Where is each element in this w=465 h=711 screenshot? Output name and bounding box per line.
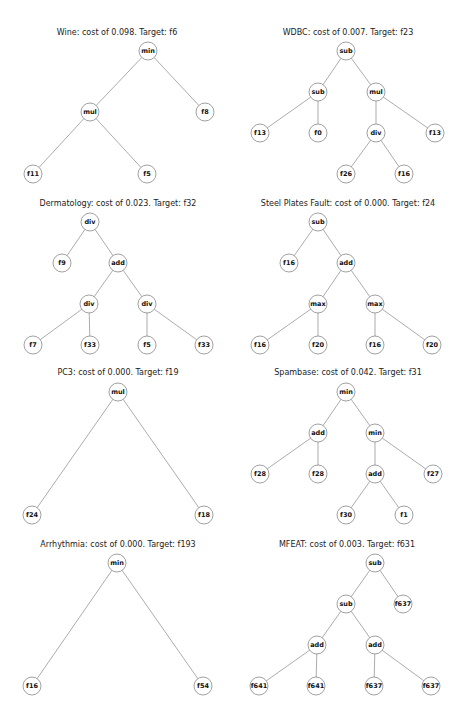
tree-edge <box>323 58 341 84</box>
node-label: mul <box>369 88 383 96</box>
tree-node: f28 <box>251 465 269 483</box>
node-label: min <box>110 559 124 567</box>
tree-node: sub <box>309 213 327 231</box>
tree-node: f16 <box>23 677 41 695</box>
node-label: f11 <box>27 170 39 178</box>
node-label: f18 <box>198 511 210 519</box>
tree-node: mul <box>81 103 99 121</box>
tree-node: div <box>367 124 385 142</box>
tree-panel-wine: Wine: cost of 0.098. Target: f6minmulf8f… <box>24 28 214 183</box>
tree-node: max <box>309 295 327 313</box>
tree-node: add <box>337 254 355 272</box>
tree-edge <box>322 611 341 637</box>
tree-edge <box>351 570 370 596</box>
tree-edge <box>95 229 113 255</box>
panel-title: Arrhythmia: cost of 0.000. Target: f193 <box>40 540 195 549</box>
tree-panel-arrhythmia: Arrhythmia: cost of 0.000. Target: f193m… <box>23 540 212 695</box>
tree-edge <box>37 570 112 678</box>
tree-edge <box>351 58 370 84</box>
node-label: add <box>339 259 353 267</box>
tree-node: add <box>109 254 127 272</box>
tree-node: min <box>139 42 157 60</box>
tree-edge <box>374 654 375 677</box>
tree-edge <box>123 270 142 296</box>
node-label: add <box>368 641 382 649</box>
node-label: f54 <box>197 682 209 690</box>
node-label: div <box>83 300 95 308</box>
panel-title: Steel Plates Fault: cost of 0.000. Targe… <box>261 199 435 208</box>
tree-node: f13 <box>426 124 444 142</box>
tree-node: div <box>138 295 156 313</box>
tree-node: f33 <box>195 336 213 354</box>
node-label: f637 <box>395 600 411 608</box>
node-label: add <box>311 429 325 437</box>
node-label: sub <box>368 559 381 567</box>
tree-panel-steel-plates-fault: Steel Plates Fault: cost of 0.000. Targe… <box>251 199 441 354</box>
tree-node: add <box>366 636 384 654</box>
tree-panel-spambase: Spambase: cost of 0.042. Target: f31mina… <box>251 368 442 524</box>
node-label: f16 <box>254 341 266 349</box>
tree-node: f24 <box>23 506 41 524</box>
tree-node: sub <box>337 595 355 613</box>
tree-node: f16 <box>395 165 413 183</box>
tree-node: f5 <box>138 165 156 183</box>
node-label: f637 <box>366 682 382 690</box>
node-label: min <box>339 388 353 396</box>
node-label: f20 <box>312 341 324 349</box>
tree-edge <box>294 229 313 255</box>
node-label: f16 <box>283 259 295 267</box>
tree-edge <box>351 270 370 296</box>
node-label: sub <box>311 88 324 96</box>
panel-title: PC3: cost of 0.000. Target: f19 <box>57 368 178 377</box>
tree-node: add <box>308 636 326 654</box>
tree-node: div <box>81 213 99 231</box>
node-label: f16 <box>398 170 410 178</box>
node-label: max <box>367 300 383 308</box>
tree-edge <box>39 119 84 168</box>
tree-node: f5 <box>138 336 156 354</box>
tree-edge <box>96 58 142 106</box>
tree-edge <box>122 570 198 678</box>
tree-edge <box>266 650 309 681</box>
tree-node: f16 <box>280 254 298 272</box>
tree-node: f18 <box>195 506 213 524</box>
node-label: add <box>368 470 382 478</box>
node-label: div <box>141 300 153 308</box>
node-label: f5 <box>143 170 151 178</box>
tree-edge <box>154 309 196 339</box>
node-label: f8 <box>201 108 209 116</box>
node-label: f33 <box>84 341 96 349</box>
tree-edge <box>323 399 341 425</box>
panel-title: Wine: cost of 0.098. Target: f6 <box>57 28 177 37</box>
tree-node: f641 <box>250 677 268 695</box>
tree-node: f637 <box>422 677 440 695</box>
tree-edge <box>67 229 85 255</box>
node-label: f9 <box>58 259 66 267</box>
node-label: f28 <box>312 470 324 478</box>
tree-node: f9 <box>53 254 71 272</box>
tree-edge <box>351 399 370 425</box>
tree-node: max <box>366 295 384 313</box>
tree-node: f54 <box>194 677 212 695</box>
tree-edge <box>380 570 398 596</box>
tree-node: f641 <box>307 677 325 695</box>
tree-node: f20 <box>423 336 441 354</box>
node-label: f13 <box>429 129 441 137</box>
tree-node: f7 <box>24 336 42 354</box>
tree-node: f1 <box>395 506 413 524</box>
tree-edge <box>267 97 310 128</box>
tree-edge <box>382 309 424 339</box>
tree-edge <box>316 654 317 677</box>
panel-title: MFEAT: cost of 0.003. Target: f631 <box>279 540 415 549</box>
panel-title: Dermatology: cost of 0.023. Target: f32 <box>40 199 197 208</box>
tree-edge <box>37 399 113 507</box>
node-label: div <box>84 218 96 226</box>
tree-edge <box>381 140 399 166</box>
node-label: f27 <box>427 470 439 478</box>
tree-node: f16 <box>366 336 384 354</box>
node-label: f16 <box>369 341 381 349</box>
node-label: f26 <box>340 170 352 178</box>
tree-node: f11 <box>24 165 42 183</box>
tree-node: f26 <box>337 165 355 183</box>
tree-node: mul <box>367 83 385 101</box>
